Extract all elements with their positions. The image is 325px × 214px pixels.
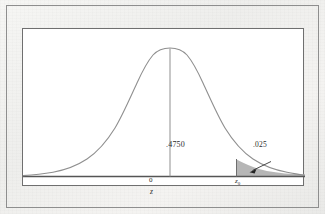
axis-tick-zero: 0	[149, 176, 153, 184]
normal-curve-path	[23, 48, 305, 176]
normal-curve-plot	[23, 29, 305, 187]
figure-panel	[22, 28, 304, 186]
critical-value-subscript: 0	[238, 181, 241, 186]
area-label-tail: .025	[253, 140, 267, 149]
axis-tick-critical-value: z0	[235, 177, 240, 186]
axis-name-z: z	[150, 187, 153, 196]
figure-page: .4750 .025 0 z z0	[0, 0, 325, 214]
area-label-main: .4750	[166, 140, 185, 149]
